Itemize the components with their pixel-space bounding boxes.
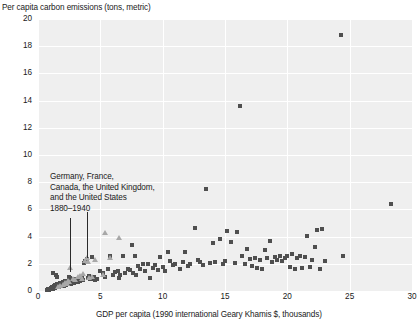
data-point-square bbox=[134, 273, 138, 277]
data-point-square bbox=[389, 202, 393, 206]
y-tick-label: 8 bbox=[2, 178, 32, 186]
gridline-vertical bbox=[38, 19, 39, 291]
data-point-square bbox=[303, 255, 307, 259]
data-point-square bbox=[225, 229, 229, 233]
data-point-square bbox=[285, 254, 289, 258]
data-point-square bbox=[275, 258, 279, 262]
data-point-square bbox=[123, 271, 127, 275]
data-point-square bbox=[121, 254, 125, 258]
data-point-square bbox=[268, 239, 272, 243]
data-point-square bbox=[253, 256, 257, 260]
annotation-line-2: Canada, the United Kingdom, bbox=[50, 183, 155, 194]
data-point-square bbox=[229, 240, 233, 244]
data-point-square bbox=[290, 252, 294, 256]
data-point-square bbox=[258, 258, 262, 262]
data-point-square bbox=[166, 250, 170, 254]
data-point-square bbox=[141, 262, 145, 266]
y-tick-label: 4 bbox=[2, 233, 32, 241]
data-point-square bbox=[143, 269, 147, 273]
y-tick-label: 12 bbox=[2, 124, 32, 132]
data-point-square bbox=[315, 228, 319, 232]
gridline-vertical bbox=[225, 19, 226, 291]
gridline-vertical bbox=[412, 19, 413, 291]
data-point-square bbox=[111, 273, 115, 277]
data-point-triangle bbox=[100, 272, 106, 277]
data-point-square bbox=[280, 259, 284, 263]
data-point-square bbox=[288, 265, 292, 269]
data-point-square bbox=[181, 260, 185, 264]
data-point-square bbox=[235, 230, 239, 234]
y-tick-label: 10 bbox=[2, 151, 32, 159]
data-point-square bbox=[117, 276, 121, 280]
x-tick-label: 15 bbox=[210, 293, 240, 301]
y-tick-label: 18 bbox=[2, 42, 32, 50]
gridline-vertical bbox=[350, 19, 351, 291]
data-point-triangle bbox=[66, 279, 72, 284]
data-point-square bbox=[293, 267, 297, 271]
data-point-square bbox=[173, 262, 177, 266]
data-point-square bbox=[298, 254, 302, 258]
data-point-square bbox=[240, 254, 244, 258]
x-tick-label: 5 bbox=[85, 293, 115, 301]
data-point-square bbox=[323, 259, 327, 263]
data-point-square bbox=[196, 258, 200, 262]
data-point-square bbox=[255, 266, 259, 270]
data-point-square bbox=[106, 267, 110, 271]
data-point-square bbox=[211, 241, 215, 245]
data-point-square bbox=[238, 104, 242, 108]
y-tick-label: 16 bbox=[2, 69, 32, 77]
data-point-square bbox=[156, 268, 160, 272]
annotation-line-4: 1880–1940 bbox=[50, 204, 155, 215]
data-point-square bbox=[233, 261, 237, 265]
y-tick-label: 14 bbox=[2, 97, 32, 105]
gridline-vertical bbox=[100, 19, 101, 291]
data-point-square bbox=[263, 248, 267, 252]
data-point-square bbox=[270, 260, 274, 264]
data-point-square bbox=[168, 259, 172, 263]
data-point-square bbox=[310, 258, 314, 262]
data-point-square bbox=[186, 264, 190, 268]
data-point-square bbox=[158, 255, 162, 259]
data-point-square bbox=[208, 261, 212, 265]
data-point-square bbox=[305, 234, 309, 238]
x-tick-label: 25 bbox=[335, 293, 365, 301]
data-point-square bbox=[341, 254, 345, 258]
data-point-triangle bbox=[102, 230, 108, 235]
data-point-square bbox=[320, 227, 324, 231]
data-point-square bbox=[243, 262, 247, 266]
annotation-line-3: and the United States bbox=[50, 193, 155, 204]
data-point-triangle bbox=[89, 274, 95, 279]
data-point-square bbox=[95, 277, 99, 281]
leader-line bbox=[70, 218, 71, 272]
y-axis-label: Per capita carbon emissions (tons, metri… bbox=[2, 3, 151, 12]
data-point-square bbox=[193, 226, 197, 230]
data-point-triangle bbox=[85, 259, 91, 264]
data-point-triangle bbox=[116, 235, 122, 240]
data-point-square bbox=[130, 243, 134, 247]
scatter-chart: Per capita carbon emissions (tons, metri… bbox=[0, 0, 419, 325]
data-point-square bbox=[260, 267, 264, 271]
plot-area bbox=[38, 19, 412, 291]
data-point-square bbox=[248, 257, 252, 261]
data-point-square bbox=[55, 275, 59, 279]
annotation-line-1: Germany, France, bbox=[50, 172, 155, 183]
gridline-vertical bbox=[163, 19, 164, 291]
data-point-square bbox=[265, 256, 269, 260]
leader-line bbox=[87, 212, 88, 258]
data-point-square bbox=[223, 259, 227, 263]
y-tick-label: 6 bbox=[2, 205, 32, 213]
data-point-square bbox=[148, 276, 152, 280]
data-point-triangle bbox=[79, 276, 85, 281]
x-tick-label: 0 bbox=[23, 293, 53, 301]
annotation-label: Germany, France, Canada, the United King… bbox=[50, 172, 155, 214]
data-point-square bbox=[218, 237, 222, 241]
y-tick-label: 20 bbox=[2, 15, 32, 23]
data-point-square bbox=[133, 254, 137, 258]
data-point-square bbox=[278, 254, 282, 258]
data-point-square bbox=[201, 263, 205, 267]
data-point-triangle bbox=[107, 255, 113, 260]
data-point-square bbox=[204, 187, 208, 191]
x-tick-label: 30 bbox=[397, 293, 419, 301]
data-point-square bbox=[146, 262, 150, 266]
data-point-square bbox=[308, 265, 312, 269]
